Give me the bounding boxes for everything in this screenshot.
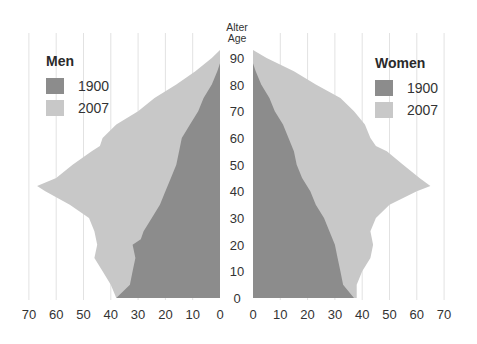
- legend-item-men-2007: 2007: [46, 97, 109, 119]
- x-tick-label-left: 20: [158, 307, 172, 322]
- x-tick-label-right: 40: [355, 307, 369, 322]
- age-tick-label: 30: [230, 210, 244, 225]
- legend-men: Men 1900 2007: [46, 53, 109, 119]
- legend-title-women: Women: [375, 55, 438, 71]
- x-tick-label-left: 70: [22, 307, 36, 322]
- swatch-2007: [375, 102, 393, 118]
- age-tick-label: 10: [230, 264, 244, 279]
- age-tick-label: 40: [230, 184, 244, 199]
- x-tick-label-right: 60: [410, 307, 424, 322]
- swatch-1900: [375, 80, 393, 96]
- age-tick-label: 20: [230, 237, 244, 252]
- swatch-2007: [46, 100, 64, 116]
- x-tick-label-right: 50: [382, 307, 396, 322]
- x-tick-label-right: 10: [273, 307, 287, 322]
- y-axis-title-line2: Age: [226, 33, 248, 44]
- legend-label: 2007: [78, 100, 109, 116]
- x-tick-label-right: 70: [437, 307, 451, 322]
- legend-label: 1900: [78, 78, 109, 94]
- x-tick-label-left: 10: [185, 307, 199, 322]
- x-tick-label-left: 60: [49, 307, 63, 322]
- legend-item-women-2007: 2007: [375, 99, 438, 121]
- y-axis-title: Alter Age: [226, 22, 248, 44]
- legend-item-men-1900: 1900: [46, 75, 109, 97]
- age-tick-label: 0: [233, 291, 240, 306]
- x-tick-label-left: 50: [76, 307, 90, 322]
- legend-label: 2007: [407, 102, 438, 118]
- x-tick-label-left: 40: [104, 307, 118, 322]
- age-tick-label: 80: [230, 77, 244, 92]
- age-tick-label: 60: [230, 130, 244, 145]
- x-tick-label-right: 20: [300, 307, 314, 322]
- x-tick-label-right: 0: [249, 307, 256, 322]
- x-tick-label-left: 0: [216, 307, 223, 322]
- legend-item-women-1900: 1900: [375, 77, 438, 99]
- age-tick-label: 70: [230, 104, 244, 119]
- swatch-1900: [46, 78, 64, 94]
- x-tick-label-right: 30: [328, 307, 342, 322]
- age-tick-label: 50: [230, 157, 244, 172]
- legend-title-men: Men: [46, 53, 109, 69]
- age-tick-label: 90: [230, 50, 244, 65]
- legend-label: 1900: [407, 80, 438, 96]
- legend-women: Women 1900 2007: [375, 55, 438, 121]
- x-tick-label-left: 30: [131, 307, 145, 322]
